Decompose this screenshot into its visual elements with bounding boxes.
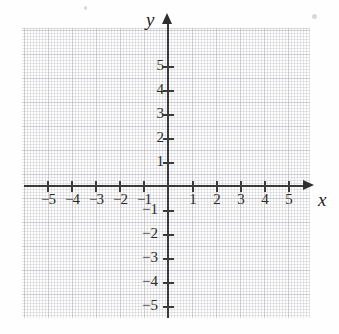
y-tick-label: 1 — [140, 154, 164, 169]
x-tick-label: −2 — [109, 192, 131, 207]
x-axis-arrow-icon — [303, 180, 314, 190]
scan-speck — [312, 14, 317, 19]
y-tick-label: −5 — [134, 298, 158, 313]
x-tick-label: 5 — [278, 192, 300, 207]
grid-vertical-lines — [22, 28, 310, 318]
x-tick-label: −4 — [61, 192, 83, 207]
x-tick-label: 1 — [182, 192, 204, 207]
coordinate-plane-figure: −5−4−3−2−11234554321−1−2−3−4−5 x y — [0, 0, 339, 334]
grid-background — [22, 28, 310, 318]
x-tick-label: −5 — [37, 192, 59, 207]
y-axis-arrow-icon — [162, 13, 172, 24]
y-tick-mark — [163, 138, 174, 140]
y-axis-label: y — [146, 10, 154, 29]
y-tick-label: 3 — [140, 106, 164, 121]
x-tick-label: 2 — [206, 192, 228, 207]
y-tick-mark — [163, 210, 174, 212]
x-axis-label: x — [318, 190, 326, 209]
y-tick-label: 4 — [140, 82, 164, 97]
x-tick-label: −3 — [85, 192, 107, 207]
y-tick-mark — [163, 234, 174, 236]
y-tick-mark — [163, 114, 174, 116]
y-tick-mark — [163, 306, 174, 308]
y-tick-label: 5 — [140, 58, 164, 73]
y-tick-mark — [163, 282, 174, 284]
y-tick-label: −4 — [134, 274, 158, 289]
y-tick-mark — [163, 162, 174, 164]
y-tick-label: −2 — [134, 226, 158, 241]
y-tick-mark — [163, 258, 174, 260]
y-tick-label: −1 — [134, 202, 158, 217]
x-tick-label: 3 — [230, 192, 252, 207]
y-tick-label: −3 — [134, 250, 158, 265]
x-tick-label: 4 — [254, 192, 276, 207]
y-tick-mark — [163, 66, 174, 68]
y-tick-mark — [163, 90, 174, 92]
scan-speck — [84, 6, 87, 10]
grid-horizontal-lines — [22, 28, 310, 318]
y-tick-label: 2 — [140, 130, 164, 145]
